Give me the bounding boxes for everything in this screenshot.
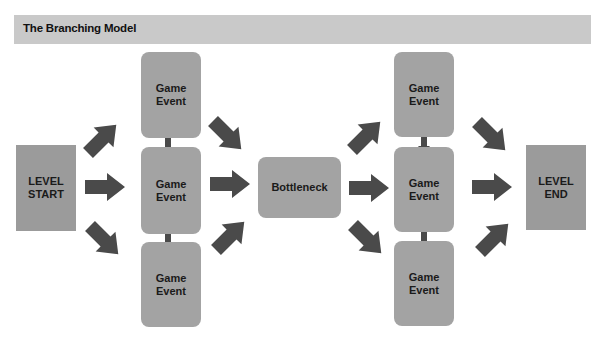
- level-start-node: LEVEL START: [16, 145, 76, 231]
- arrow-top-to-end: [467, 112, 515, 160]
- game-event-node-left-top: Game Event: [141, 52, 201, 138]
- arrow-start-to-mid: [85, 173, 125, 201]
- arrow-bottleneck-to-bot: [343, 215, 391, 263]
- arrow-bottleneck-to-top: [342, 112, 390, 160]
- game-event-label: Game Event: [156, 82, 187, 108]
- game-event-label: Game Event: [156, 178, 187, 204]
- level-end-label: LEVEL END: [538, 175, 573, 201]
- game-event-node-right-top: Game Event: [394, 52, 454, 137]
- bottleneck-label: Bottleneck: [271, 181, 327, 194]
- arrow-top-to-bottleneck: [203, 111, 251, 159]
- level-end-node: LEVEL END: [526, 145, 586, 230]
- game-event-label: Game Event: [156, 272, 187, 298]
- arrow-start-to-top: [78, 115, 126, 163]
- game-event-node-left-bot: Game Event: [141, 242, 201, 327]
- bottleneck-node: Bottleneck: [258, 157, 341, 218]
- arrow-mid-to-end: [472, 173, 512, 201]
- game-event-node-left-mid: Game Event: [141, 147, 201, 234]
- arrow-bot-to-bottleneck: [206, 212, 254, 260]
- game-event-label: Game Event: [409, 177, 440, 203]
- game-event-label: Game Event: [409, 271, 440, 297]
- arrow-start-to-bot: [80, 216, 128, 264]
- arrow-bottleneck-to-mid: [349, 174, 389, 202]
- game-event-node-right-mid: Game Event: [394, 147, 454, 232]
- game-event-label: Game Event: [409, 82, 440, 108]
- game-event-node-right-bot: Game Event: [394, 241, 454, 326]
- level-start-label: LEVEL START: [28, 175, 64, 201]
- arrow-bot-to-end: [470, 214, 518, 262]
- arrow-mid-to-bottleneck: [210, 170, 250, 198]
